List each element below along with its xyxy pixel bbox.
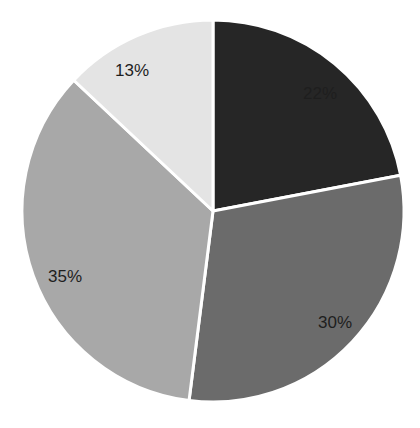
slice-label-3: 35%	[48, 267, 82, 286]
pie-chart: 22% 30% 35% 13%	[0, 0, 420, 428]
slice-label-1: 22%	[303, 84, 337, 103]
slice-label-4: 13%	[115, 61, 149, 80]
pie-slice-2	[189, 175, 404, 402]
pie-slices	[22, 20, 404, 402]
slice-label-2: 30%	[318, 313, 352, 332]
